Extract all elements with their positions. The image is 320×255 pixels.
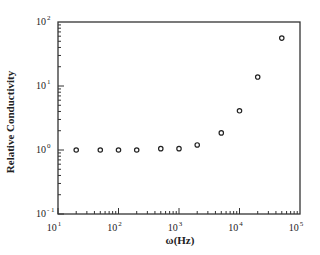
x-tick-labels: 101102103104105 — [47, 220, 304, 233]
data-point — [98, 148, 102, 152]
y-tick-label: 102 — [36, 14, 51, 27]
x-tick-label: 103 — [168, 220, 183, 233]
x-axis-title: ω(Hz) — [166, 234, 195, 247]
data-point — [177, 146, 181, 150]
data-point — [219, 131, 223, 135]
data-point — [159, 146, 163, 150]
data-point — [280, 36, 284, 40]
relative-conductivity-chart: 101102103104105 10- 1100101102 ω(Hz) Rel… — [0, 0, 320, 255]
data-points — [74, 36, 284, 152]
y-axis-title: Relative Conductivity — [4, 70, 16, 173]
y-tick-label: 101 — [36, 78, 51, 91]
axis-ticks — [58, 25, 297, 214]
data-point — [195, 143, 199, 147]
plot-frame — [58, 22, 300, 214]
data-point — [135, 148, 139, 152]
x-tick-label: 102 — [107, 220, 122, 233]
y-tick-label: 10- 1 — [36, 206, 55, 219]
data-point — [74, 148, 78, 152]
data-point — [237, 109, 241, 113]
x-tick-label: 104 — [228, 220, 243, 233]
data-point — [116, 148, 120, 152]
y-tick-label: 100 — [36, 142, 51, 155]
data-point — [256, 75, 260, 79]
y-tick-labels: 10- 1100101102 — [36, 14, 55, 219]
x-tick-label: 105 — [289, 220, 304, 233]
x-tick-label: 101 — [47, 220, 62, 233]
